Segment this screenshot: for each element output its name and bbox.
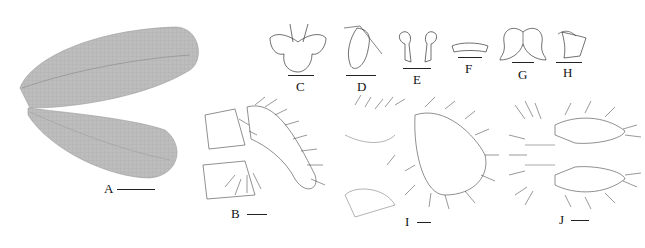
panel-f: F: [450, 40, 490, 80]
panel-label-c: C: [296, 80, 305, 93]
structure-d-drawing: [342, 20, 392, 80]
panel-i: I: [335, 95, 500, 245]
structure-c-drawing: [268, 20, 328, 80]
structure-e-drawing: [393, 28, 443, 68]
panel-label-a: A: [104, 182, 113, 195]
panel-g: G: [498, 24, 548, 84]
panel-label-i: I: [405, 215, 409, 228]
structure-g-drawing: [498, 24, 548, 64]
panel-label-d: D: [357, 80, 366, 93]
panel-label-b: B: [231, 207, 240, 220]
panel-label-h: H: [563, 66, 572, 79]
panel-label-f: F: [465, 62, 472, 75]
scale-bar-d: [346, 75, 376, 76]
scale-bar-a: [117, 189, 155, 190]
scale-bar-e: [403, 68, 431, 69]
scale-bar-b: [247, 214, 267, 215]
scale-bar-h: [556, 62, 582, 63]
panel-b: B: [195, 95, 335, 245]
scale-bar-j: [571, 220, 589, 221]
panel-label-g: G: [518, 68, 527, 81]
panel-j: J: [505, 95, 645, 245]
scale-bar-i: [417, 222, 431, 223]
structure-h-drawing: [556, 28, 596, 60]
structure-f-drawing: [450, 40, 490, 54]
panel-label-j: J: [559, 213, 564, 226]
panel-d: D: [342, 20, 392, 90]
scale-bar-f: [458, 57, 482, 58]
scale-bar-c: [288, 75, 314, 76]
panel-c: C: [268, 20, 328, 90]
terminalia-j-drawing: [505, 95, 645, 215]
panel-h: H: [556, 28, 596, 83]
segments-b-drawing: [195, 95, 335, 215]
panel-label-e: E: [413, 73, 421, 86]
panel-e: E: [393, 28, 443, 83]
scale-bar-g: [512, 62, 534, 63]
terminalia-i-drawing: [335, 95, 500, 215]
